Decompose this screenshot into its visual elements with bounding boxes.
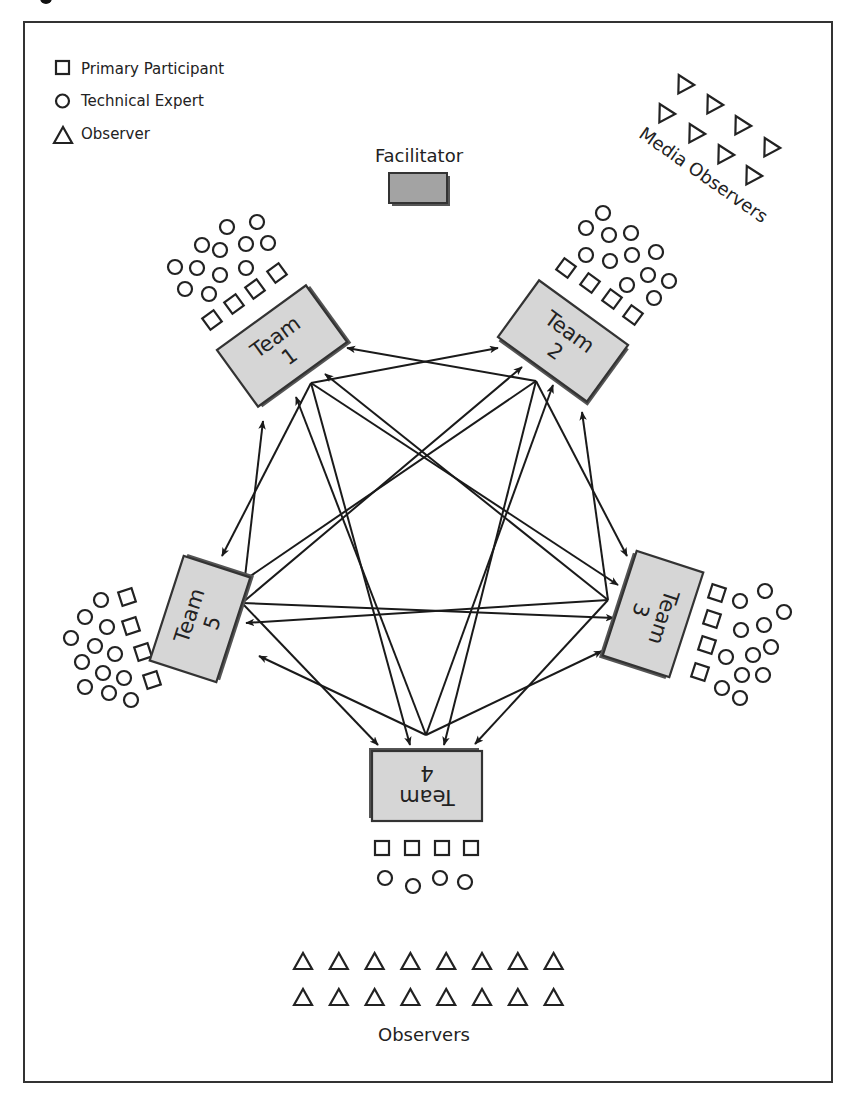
technical-expert-seat [624,226,638,240]
observer-seat [671,71,694,94]
circle-icon [56,95,69,108]
observer-seat [473,953,491,969]
technical-expert-seat [756,668,770,682]
technical-expert-seat [102,686,116,700]
team-4-table: Team4 [369,748,482,821]
observers: Observers [294,953,563,1045]
technical-expert-seat [213,243,227,257]
observer-seat [700,91,723,114]
technical-expert-seat [75,655,89,669]
primary-participant-seat [267,263,287,283]
legend: Primary Participant Technical Expert Obs… [54,60,224,143]
arrow-team-1-to-team-2 [311,348,498,383]
primary-participant-seat [703,610,721,628]
observer-seat [652,100,675,123]
technical-expert-seat [108,647,122,661]
legend-label-observer: Observer [81,125,151,143]
observer-seat [294,953,312,969]
primary-participant-seat [691,663,709,681]
technical-expert-seat [458,875,472,889]
legend-label-primary: Primary Participant [81,60,224,78]
connection-arrows [222,348,627,745]
observer-seat [509,989,527,1005]
technical-expert-seat [378,871,392,885]
observer-seat [401,953,419,969]
team-3-table: Team3 [599,550,703,680]
technical-expert-seat [647,291,661,305]
technical-expert-seat [239,261,253,275]
technical-expert-seat [735,668,749,682]
technical-expert-seat [733,594,747,608]
technical-expert-seat [625,248,639,262]
technical-expert-seat [406,879,420,893]
technical-expert-seat [649,245,663,259]
arrow-team-5-to-team-2 [242,367,522,603]
technical-expert-seat [746,648,760,662]
technical-expert-seat [195,238,209,252]
page-fragment-mark [40,0,52,4]
primary-participant-seat [556,258,576,278]
primary-participant-seat [580,273,600,293]
observer-seat [757,134,780,157]
arrow-team-3-to-team-2 [582,412,608,600]
technical-expert-seat [764,640,778,654]
observer-seat [366,953,384,969]
primary-participant-seat [118,588,136,606]
observer-seat [739,162,762,185]
primary-participant-seat [602,289,622,309]
primary-participant-seat [245,279,265,299]
team-4-seats [375,841,478,893]
technical-expert-seat [641,268,655,282]
technical-expert-seat [719,650,733,664]
technical-expert-seat [733,691,747,705]
team-label: Team [399,785,456,809]
technical-expert-seat [757,618,771,632]
technical-expert-seat [78,680,92,694]
observer-seat [330,953,348,969]
facilitator-label: Facilitator [375,145,464,166]
observer-seat [509,953,527,969]
technical-expert-seat [178,282,192,296]
exercise-layout-diagram: Primary Participant Technical Expert Obs… [0,0,859,1109]
primary-participant-seat [435,841,449,855]
arrow-team-3-to-team-4 [475,600,608,744]
observer-seat [294,989,312,1005]
primary-participant-seat [134,643,152,661]
team-5-table: Team5 [150,553,254,683]
arrow-team-3-to-team-5 [246,600,608,623]
arrow-team-2-to-team-1 [347,348,536,381]
team-3-seats [691,584,791,705]
technical-expert-seat [758,584,772,598]
technical-expert-seat [78,610,92,624]
team-5-seats [64,588,161,707]
technical-expert-seat [734,623,748,637]
technical-expert-seat [715,681,729,695]
technical-expert-seat [250,215,264,229]
arrow-team-4-to-team-1 [296,397,426,735]
observer-seat [473,989,491,1005]
primary-participant-seat [623,305,643,325]
square-icon [56,61,69,74]
technical-expert-seat [579,221,593,235]
technical-expert-seat [433,871,447,885]
observer-seat [366,989,384,1005]
technical-expert-seat [124,693,138,707]
observer-seat [728,112,751,135]
observer-seat [682,120,705,143]
primary-participant-seat [698,636,716,654]
technical-expert-seat [64,631,78,645]
technical-expert-seat [220,220,234,234]
observer-seat [437,989,455,1005]
team-number: 4 [420,761,433,785]
arrow-team-1-to-team-5 [222,383,311,556]
technical-expert-seat [620,278,634,292]
facilitator: Facilitator [375,145,464,206]
primary-participant-seat [122,617,140,635]
technical-expert-seat [96,666,110,680]
legend-label-technical: Technical Expert [80,92,204,110]
media-observers: Media Observers [636,71,781,227]
primary-participant-seat [708,584,726,602]
technical-expert-seat [662,274,676,288]
technical-expert-seat [579,248,593,262]
observer-seat [330,989,348,1005]
